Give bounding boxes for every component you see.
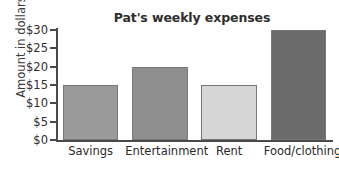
bar-rent xyxy=(201,85,256,140)
y-tick-label: $0 xyxy=(33,133,48,147)
y-tick-label: $5 xyxy=(33,115,48,129)
y-tick-mark xyxy=(50,102,57,104)
y-tick-mark xyxy=(50,84,57,86)
y-tick-mark xyxy=(50,139,57,141)
y-tick-mark xyxy=(50,66,57,68)
y-tick-mark xyxy=(50,121,57,123)
y-tick-label: $20 xyxy=(26,60,48,74)
y-tick-label: $30 xyxy=(26,23,48,37)
bar-entertainment xyxy=(132,67,187,140)
chart-title: Pat's weekly expenses xyxy=(62,10,322,25)
y-tick-label: $25 xyxy=(26,41,48,55)
x-axis-label: Food/clothing xyxy=(264,144,333,158)
bar-chart: Pat's weekly expenses Amount in dollars … xyxy=(0,0,339,175)
y-tick-label: $15 xyxy=(26,78,48,92)
y-tick-label: $10 xyxy=(26,96,48,110)
plot-area: $0$5$10$15$20$25$30 SavingsEntertainment… xyxy=(56,30,333,140)
x-axis-label: Entertainment xyxy=(125,144,194,158)
x-axis-label: Savings xyxy=(56,144,125,158)
y-tick-mark xyxy=(50,47,57,49)
x-axis-line xyxy=(56,140,333,142)
y-tick-mark xyxy=(50,29,57,31)
x-axis-label: Rent xyxy=(195,144,264,158)
bar-savings xyxy=(63,85,118,140)
bar-food-clothing xyxy=(271,30,326,140)
